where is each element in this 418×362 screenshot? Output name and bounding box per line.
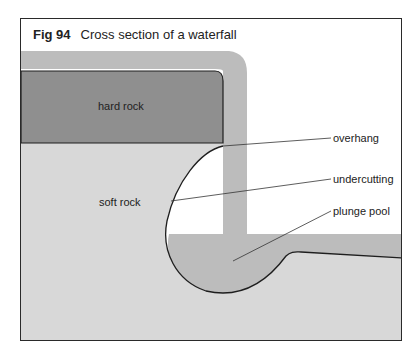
soft-rock-label: soft rock — [99, 196, 141, 208]
figure-frame: Fig 94Cross section of a waterfall hard … — [20, 18, 402, 341]
undercutting-label: undercutting — [333, 173, 394, 185]
overhang-label: overhang — [333, 132, 379, 144]
waterfall-column — [223, 141, 247, 234]
hard-rock-label: hard rock — [98, 100, 144, 112]
waterfall-diagram: hard rock soft rock overhang undercuttin… — [21, 19, 402, 341]
plunge-pool-label: plunge pool — [333, 205, 390, 217]
undercutting-leader — [171, 179, 331, 201]
